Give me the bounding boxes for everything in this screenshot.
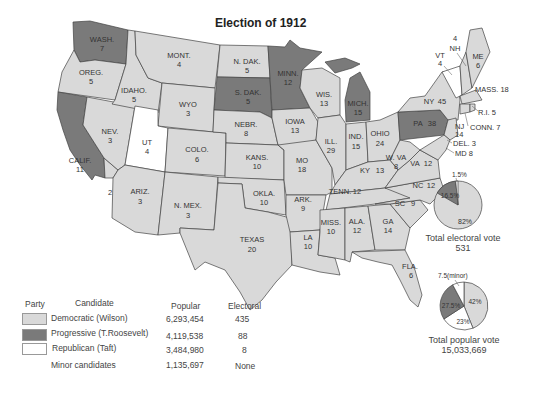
leader-md: [446, 148, 454, 153]
label-pa-ev: 38: [428, 119, 436, 128]
label-fla: FLA.: [402, 262, 418, 271]
label-me-ev: 6: [476, 61, 480, 70]
label-calif-split-ev: 2: [108, 188, 112, 197]
pie-popular-label-minor: 7.5(minor): [438, 272, 468, 280]
label-wyo-ev: 3: [186, 109, 190, 118]
pie-electoral-label-democratic: 82%: [458, 218, 472, 225]
label-nmex-ev: 3: [186, 211, 190, 220]
label-nj-ev: 14: [455, 130, 463, 139]
label-idaho-ev: 5: [132, 95, 136, 104]
legend-popular-republican: 3,484,980: [166, 345, 204, 355]
label-calif: CALIF.: [69, 156, 92, 165]
label-nc: NC: [413, 181, 424, 190]
label-vt-ev: 4: [438, 59, 442, 68]
leader-conn: [465, 113, 468, 126]
label-nh-ev: 4: [453, 34, 457, 43]
legend-electoral-minor: None: [235, 361, 255, 371]
label-miss: MISS.: [321, 218, 341, 227]
legend-header-electoral: Electoral: [228, 301, 261, 311]
label-la-ev: 10: [304, 242, 312, 251]
pie-popular-label-democratic: 42%: [468, 298, 481, 305]
label-mass: MASS. 18: [475, 85, 509, 94]
label-del: DEL. 3: [453, 139, 476, 148]
label-mo: MO: [296, 156, 308, 165]
label-pa: PA: [413, 119, 422, 128]
pie-popular-label-republican: 23%: [456, 318, 469, 325]
legend-swatch-progressive: [22, 329, 47, 341]
label-nmex: N. MEX.: [174, 201, 202, 210]
label-ny-ev: 45: [438, 97, 446, 106]
pie-popular-label-progressive: 27.5%: [442, 302, 461, 309]
popular-pie-caption: Total popular vote 15,033,669: [418, 335, 510, 355]
legend-electoral-progressive: 88: [238, 331, 247, 341]
label-wva-ev: 8: [394, 162, 398, 171]
pie-electoral-label-republican: 1.5%: [452, 171, 467, 178]
legend-header-candidate: Candidate: [75, 298, 114, 308]
label-kans: KANS.: [246, 153, 269, 162]
label-ky: KY: [360, 166, 370, 175]
label-sdak: S. DAK.: [235, 88, 262, 97]
label-ut-ev: 4: [145, 147, 149, 156]
label-sdak-ev: 5: [246, 97, 250, 106]
label-idaho: IDAHO.: [121, 86, 147, 95]
label-ind: IND.: [349, 132, 364, 141]
label-ind-ev: 15: [352, 142, 360, 151]
electoral-pie-caption: Total electoral vote 531: [418, 233, 508, 253]
label-ut: UT: [142, 138, 152, 147]
pie-electoral-label-progressive: 16.5%: [441, 192, 460, 199]
label-ala: ALA.: [349, 217, 365, 226]
label-oreg: OREG.: [79, 68, 103, 77]
label-nebr: NEBR.: [235, 120, 258, 129]
label-nebr-ev: 8: [244, 129, 248, 138]
legend-electoral-republican: 8: [242, 345, 247, 355]
label-mo-ev: 18: [298, 165, 306, 174]
popular-vote-pie: 42% 27.5% 23% 7.5(minor): [438, 272, 488, 330]
label-colo-ev: 6: [195, 155, 199, 164]
label-nc-ev: 12: [427, 181, 435, 190]
legend-candidate-minor: Minor candidates: [51, 360, 116, 370]
label-tenn: TENN.: [329, 187, 352, 196]
label-calif-ev: 11: [76, 165, 84, 174]
electoral-total: 531: [418, 243, 508, 253]
label-wash: WASH.: [90, 35, 114, 44]
legend-swatch-democratic: [22, 313, 47, 325]
label-wva: W. VA: [386, 153, 406, 162]
legend-candidate-progressive: Progressive (T.Roosevelt): [51, 328, 148, 338]
label-la: LA: [303, 233, 312, 242]
label-fla-ev: 6: [409, 271, 413, 280]
label-wash-ev: 7: [100, 44, 104, 53]
label-wis: WIS.: [316, 90, 332, 99]
popular-caption-text: Total popular vote: [418, 335, 510, 345]
label-minn: MINN.: [277, 69, 298, 78]
label-va-ev: 12: [424, 159, 432, 168]
label-sc: SC: [395, 199, 406, 208]
label-va: VA: [410, 159, 419, 168]
label-ill-ev: 29: [327, 146, 335, 155]
label-ill: ILL.: [325, 137, 338, 146]
legend-candidate-democratic: Democratic (Wilson): [51, 313, 128, 323]
label-ariz: ARIZ.: [130, 187, 149, 196]
label-mont-ev: 4: [177, 60, 181, 69]
label-nev: NEV.: [102, 127, 119, 136]
label-texas-ev: 20: [248, 245, 256, 254]
label-mich-ev: 15: [354, 108, 362, 117]
label-ga-ev: 14: [384, 226, 392, 235]
label-wyo: WYO: [179, 100, 197, 109]
label-ndak-ev: 5: [245, 66, 249, 75]
label-iowa: IOWA: [285, 117, 305, 126]
label-texas: TEXAS: [240, 235, 265, 244]
label-ariz-ev: 3: [138, 197, 142, 206]
label-ark: ARK.: [294, 195, 312, 204]
label-miss-ev: 10: [327, 227, 335, 236]
legend-swatch-republican: [22, 343, 47, 355]
label-kans-ev: 10: [253, 162, 261, 171]
label-ri: R.I. 5: [478, 108, 496, 117]
label-ohio-ev: 24: [376, 139, 384, 148]
legend-popular-democratic: 6,293,454: [166, 314, 204, 324]
label-okla: OKLA.: [253, 189, 275, 198]
state-conn: [460, 104, 470, 114]
label-me: ME: [472, 52, 483, 61]
label-nev-ev: 3: [108, 136, 112, 145]
electoral-vote-pie: 16.5% 82% 1.5%: [434, 171, 482, 229]
legend-candidate-republican: Republican (Taft): [52, 343, 116, 353]
